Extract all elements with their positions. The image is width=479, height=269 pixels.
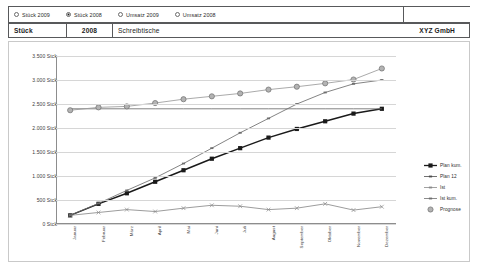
x-axis-tick-label: August <box>271 226 276 240</box>
legend-item[interactable]: Prognose <box>423 204 479 215</box>
series-lines <box>56 56 396 224</box>
y-axis-tick-label: 3.000 Stck <box>32 77 57 83</box>
radio-indicator-icon[interactable] <box>175 12 180 17</box>
chart-legend: Plan kum.Plan 12IstIst kum.Prognose <box>423 160 479 215</box>
y-axis-tick-label: 500 Stck <box>37 197 57 203</box>
y-axis-tick-label: 2.500 Stck <box>32 101 57 107</box>
x-axis-tick-label: Oktober <box>327 226 332 242</box>
series-prognose <box>68 66 385 113</box>
plot-area <box>56 56 396 224</box>
legend-label: Ist <box>440 185 445 190</box>
x-axis-tick-label: Februar <box>101 226 106 242</box>
x-axis-tick-label: April <box>157 226 162 235</box>
header-year-label: 2008 <box>82 27 97 34</box>
chart-container: 0 Stck500 Stck1.000 Stck1.500 Stck2.000 … <box>8 41 470 262</box>
gridline <box>56 104 396 105</box>
header-company-cell: XYZ GmbH <box>419 24 469 37</box>
gridline <box>56 224 396 225</box>
x-axis: JanuarFebruarMärzAprilMaiJuniJuliAugustS… <box>56 226 396 266</box>
y-axis-tick-label: 2.000 Stck <box>32 125 57 131</box>
radio-label: Stück 2008 <box>74 12 102 18</box>
radio-indicator-selected-icon[interactable] <box>66 12 71 17</box>
gridline <box>56 152 396 153</box>
y-axis: 0 Stck500 Stck1.000 Stck1.500 Stck2.000 … <box>9 42 59 263</box>
radio-option-stueck-2009[interactable]: Stück 2009 <box>9 7 60 22</box>
chart-report-page: Stück 2009 Stück 2008 Umsatz 2009 Umsatz… <box>0 0 479 269</box>
gridline <box>56 176 396 177</box>
x-axis-tick-label: September <box>299 226 304 248</box>
header-unit-label: Stück <box>14 27 33 34</box>
x-axis-tick-label: März <box>129 226 134 236</box>
legend-marker-icon <box>423 183 438 192</box>
series-ist <box>68 202 383 217</box>
gridline <box>56 56 396 57</box>
x-axis-tick-label: Mai <box>186 226 191 233</box>
plot-wrapper: 0 Stck500 Stck1.000 Stck1.500 Stck2.000 … <box>9 42 471 263</box>
y-axis-tick-label: 3.500 Stck <box>32 53 57 59</box>
x-axis-tick-label: Juli <box>242 226 247 233</box>
radio-label: Umsatz 2008 <box>183 12 216 18</box>
header-description-label: Schreibtische <box>118 27 160 34</box>
legend-item[interactable]: Plan kum. <box>423 160 479 171</box>
legend-marker-icon <box>423 205 438 214</box>
radio-label: Umsatz 2009 <box>126 12 159 18</box>
report-header-row: Stück 2008 Schreibtische XYZ GmbH <box>8 23 470 38</box>
header-unit-cell: Stück <box>9 24 67 37</box>
gridline <box>56 128 396 129</box>
x-axis-tick-label: Dezember <box>384 226 389 247</box>
gridline <box>56 80 396 81</box>
header-company-label: XYZ GmbH <box>419 27 455 34</box>
x-axis-tick-label: November <box>356 226 361 247</box>
selector-empty-cell <box>404 7 470 22</box>
x-axis-tick-label: Januar <box>72 226 77 240</box>
legend-marker-icon <box>423 194 438 203</box>
legend-label: Plan kum. <box>440 163 462 168</box>
radio-label: Stück 2009 <box>22 12 50 18</box>
header-description-cell: Schreibtische <box>113 24 419 37</box>
legend-label: Prognose <box>440 207 461 212</box>
y-axis-tick-label: 1.000 Stck <box>32 173 57 179</box>
x-axis-tick-label: Juni <box>214 226 219 234</box>
radio-option-stueck-2008[interactable]: Stück 2008 <box>60 7 112 22</box>
legend-marker-icon <box>423 161 438 170</box>
legend-marker-icon <box>423 172 438 181</box>
radio-indicator-icon[interactable] <box>14 12 19 17</box>
legend-item[interactable]: Ist kum. <box>423 193 479 204</box>
series-ist-kum <box>69 79 384 216</box>
y-axis-tick-label: 1.500 Stck <box>32 149 57 155</box>
radio-indicator-icon[interactable] <box>118 12 123 17</box>
radio-option-umsatz-2009[interactable]: Umsatz 2009 <box>112 7 169 22</box>
legend-item[interactable]: Plan 12 <box>423 171 479 182</box>
dataset-selector-bar: Stück 2009 Stück 2008 Umsatz 2009 Umsatz… <box>8 6 470 23</box>
radio-option-umsatz-2008[interactable]: Umsatz 2008 <box>169 7 226 22</box>
legend-label: Plan 12 <box>440 174 457 179</box>
y-axis-tick-label: 0 Stck <box>43 221 58 227</box>
gridline <box>56 200 396 201</box>
radio-group: Stück 2009 Stück 2008 Umsatz 2009 Umsatz… <box>9 7 403 22</box>
legend-item[interactable]: Ist <box>423 182 479 193</box>
legend-label: Ist kum. <box>440 196 457 201</box>
header-year-cell: 2008 <box>67 24 113 37</box>
